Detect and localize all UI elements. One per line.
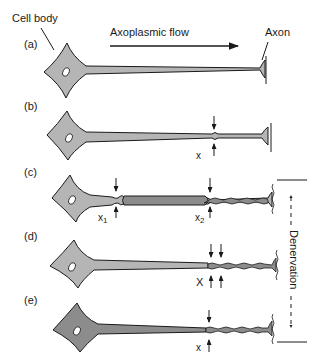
neuron-a [44,43,266,98]
denervation-bracket [277,180,307,342]
neuron-c [52,175,274,222]
neuron-b [47,111,271,160]
neuron-d [50,240,278,288]
cell-body-pointer [41,28,54,50]
neuron-diagram [0,0,321,364]
degenerated-terminal [272,314,274,344]
neuron-e [53,303,274,352]
degenerated-terminal [272,184,274,214]
degenerated-terminal [276,250,278,280]
axon-pointer [262,42,268,60]
